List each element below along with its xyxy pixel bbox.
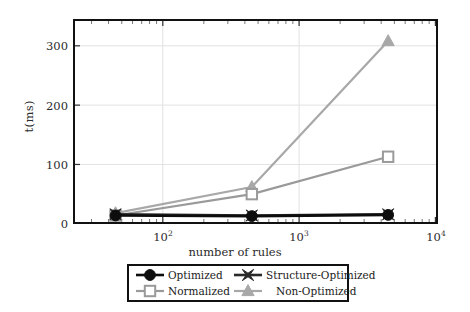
y-axis-tick-labels: 0 100 200 300 bbox=[0, 0, 68, 312]
y-axis-title: t(ms) bbox=[22, 100, 36, 132]
y-tick-label: 100 bbox=[46, 158, 68, 172]
legend-marker-open-square-icon bbox=[135, 284, 165, 298]
legend-row: Normalized Non-Optimized bbox=[135, 283, 341, 299]
legend-row: Optimized Structure-Optimized bbox=[135, 267, 341, 283]
legend-entry-structure-optimized[interactable]: Structure-Optimized bbox=[233, 268, 341, 282]
legend-label: Normalized bbox=[165, 285, 230, 297]
x-tick-mantissa: 10 bbox=[426, 230, 441, 244]
marker-open-square bbox=[383, 152, 393, 162]
legend-marker-filled-circle-icon bbox=[135, 268, 165, 282]
legend-label: Optimized bbox=[165, 269, 223, 281]
marker-filled-circle bbox=[145, 270, 156, 281]
x-tick-label: 102 bbox=[153, 229, 172, 244]
legend-entry-normalized[interactable]: Normalized bbox=[135, 284, 233, 298]
y-tick-label: 300 bbox=[46, 39, 68, 53]
marker-filled-triangle bbox=[382, 35, 394, 46]
legend-label: Non-Optimized bbox=[263, 285, 357, 297]
plot-canvas bbox=[75, 21, 436, 222]
legend-entry-optimized[interactable]: Optimized bbox=[135, 268, 233, 282]
x-tick-label: 104 bbox=[426, 229, 445, 244]
marker-filled-circle bbox=[383, 210, 394, 221]
x-tick-exponent: 3 bbox=[304, 229, 309, 238]
x-tick-exponent: 2 bbox=[168, 229, 173, 238]
legend-marker-filled-triangle-icon bbox=[233, 284, 263, 298]
marker-open-square bbox=[145, 286, 155, 296]
marker-open-square bbox=[247, 189, 257, 199]
legend-marker-filled-x-star-icon bbox=[233, 268, 263, 282]
x-tick-exponent: 4 bbox=[441, 229, 446, 238]
x-tick-mantissa: 10 bbox=[153, 230, 168, 244]
marker-filled-circle bbox=[110, 210, 121, 221]
marker-filled-circle bbox=[246, 211, 257, 222]
series-optimized bbox=[110, 210, 393, 222]
plot-area bbox=[75, 21, 436, 222]
plot-frame bbox=[73, 19, 438, 224]
chart-legend: Optimized Structure-Optimized Normalized… bbox=[127, 264, 349, 302]
legend-entry-non-optimized[interactable]: Non-Optimized bbox=[233, 284, 341, 298]
legend-label: Structure-Optimized bbox=[263, 269, 376, 281]
x-axis-title: number of rules bbox=[0, 245, 470, 259]
x-tick-label: 103 bbox=[289, 229, 308, 244]
x-tick-mantissa: 10 bbox=[289, 230, 304, 244]
y-tick-label: 200 bbox=[46, 99, 68, 113]
figure: 0 100 200 300 t(ms) 102 103 104 number o… bbox=[0, 0, 470, 312]
